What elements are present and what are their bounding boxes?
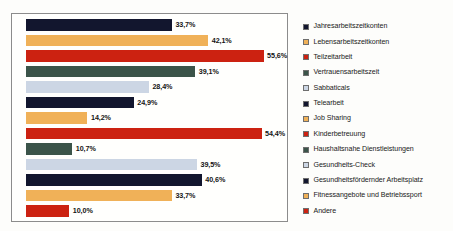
legend-color-swatch-icon	[303, 162, 309, 168]
bar-value-label: 24,9%	[137, 99, 157, 106]
bar-rect	[26, 50, 264, 62]
legend-color-swatch-icon	[303, 85, 309, 91]
legend-item: Gesundheitsfördernder Arbeitsplatz	[303, 173, 451, 188]
legend-item: Gesundheits-Check	[303, 158, 451, 173]
bar-rect	[26, 97, 134, 109]
legend-color-swatch-icon	[303, 147, 309, 153]
bar-row: 14,2%	[26, 110, 287, 126]
legend-item: Vertrauensarbeitszeit	[303, 65, 451, 80]
legend-item-label: Fitnessangebote und Betriebssport	[314, 192, 422, 199]
bar-rect	[26, 81, 149, 93]
bar-rect	[26, 159, 197, 171]
legend-color-swatch-icon	[303, 178, 309, 184]
bar-row: 54,4%	[26, 126, 287, 142]
legend-item-label: Gesundheitsfördernder Arbeitsplatz	[314, 177, 424, 184]
legend-color-swatch-icon	[303, 116, 309, 122]
bar-rect	[26, 19, 172, 31]
legend-item-label: Sabbaticals	[314, 85, 350, 92]
bar-row: 55,6%	[26, 48, 287, 64]
bar-row: 24,9%	[26, 95, 287, 111]
legend-item: Haushaltsnahe Dienstleistungen	[303, 142, 451, 157]
bar-rect	[26, 35, 208, 47]
legend-item: Jahresarbeitszeitkonten	[303, 19, 451, 34]
legend-item: Andere	[303, 204, 451, 219]
bar-value-label: 10,0%	[73, 207, 93, 214]
bar-value-label: 42,1%	[212, 37, 232, 44]
bar-value-label: 10,7%	[76, 145, 96, 152]
bar-value-label: 40,6%	[205, 176, 225, 183]
legend-item: Fitnessangebote und Betriebssport	[303, 188, 451, 203]
bar-chart-figure: 33,7%42,1%55,6%39,1%28,4%24,9%14,2%54,4%…	[0, 0, 453, 231]
bar-value-label: 33,7%	[175, 192, 195, 199]
legend-item-label: Jahresarbeitszeitkonten	[314, 23, 388, 30]
bar-rect	[26, 143, 72, 155]
plot-area: 33,7%42,1%55,6%39,1%28,4%24,9%14,2%54,4%…	[11, 13, 288, 222]
bar-rect	[26, 205, 69, 217]
bar-value-label: 54,4%	[265, 130, 285, 137]
legend-item-label: Vertrauensarbeitszeit	[314, 69, 380, 76]
bar-value-label: 14,2%	[91, 114, 111, 121]
legend-color-swatch-icon	[303, 131, 309, 137]
legend-item-label: Lebensarbeitszeitkonten	[314, 39, 390, 46]
bars-layer: 33,7%42,1%55,6%39,1%28,4%24,9%14,2%54,4%…	[26, 17, 287, 221]
bar-row: 39,1%	[26, 64, 287, 80]
legend-color-swatch-icon	[303, 208, 309, 214]
bar-rect	[26, 190, 172, 202]
bar-row: 42,1%	[26, 33, 287, 49]
bar-row: 39,5%	[26, 157, 287, 173]
bar-row: 10,0%	[26, 203, 287, 219]
legend-item-label: Teilzeitarbeit	[314, 54, 353, 61]
bar-row: 28,4%	[26, 79, 287, 95]
bar-row: 33,7%	[26, 17, 287, 33]
chart-legend: JahresarbeitszeitkontenLebensarbeitszeit…	[303, 19, 451, 219]
legend-item-label: Telearbeit	[314, 100, 344, 107]
legend-color-swatch-icon	[303, 70, 309, 76]
legend-color-swatch-icon	[303, 54, 309, 60]
bar-rect	[26, 66, 195, 78]
legend-color-swatch-icon	[303, 193, 309, 199]
bar-value-label: 39,1%	[199, 68, 219, 75]
legend-item-label: Gesundheits-Check	[314, 162, 375, 169]
bar-value-label: 55,6%	[267, 52, 287, 59]
legend-color-swatch-icon	[303, 24, 309, 30]
legend-item-label: Andere	[314, 208, 337, 215]
legend-item: Teilzeitarbeit	[303, 50, 451, 65]
legend-item-label: Kinderbetreuung	[314, 131, 366, 138]
bar-value-label: 28,4%	[152, 83, 172, 90]
legend-color-swatch-icon	[303, 101, 309, 107]
bar-row: 40,6%	[26, 172, 287, 188]
bar-row: 10,7%	[26, 141, 287, 157]
bar-row: 33,7%	[26, 188, 287, 204]
bar-value-label: 33,7%	[175, 21, 195, 28]
legend-item: Sabbaticals	[303, 81, 451, 96]
bar-rect	[26, 174, 202, 186]
legend-item-label: Job Sharing	[314, 115, 351, 122]
legend-item: Job Sharing	[303, 111, 451, 126]
legend-color-swatch-icon	[303, 39, 309, 45]
bar-value-label: 39,5%	[201, 161, 221, 168]
bar-rect	[26, 128, 262, 140]
legend-item-label: Haushaltsnahe Dienstleistungen	[314, 146, 414, 153]
legend-item: Kinderbetreuung	[303, 127, 451, 142]
legend-item: Telearbeit	[303, 96, 451, 111]
bar-rect	[26, 112, 87, 124]
legend-item: Lebensarbeitszeitkonten	[303, 34, 451, 49]
